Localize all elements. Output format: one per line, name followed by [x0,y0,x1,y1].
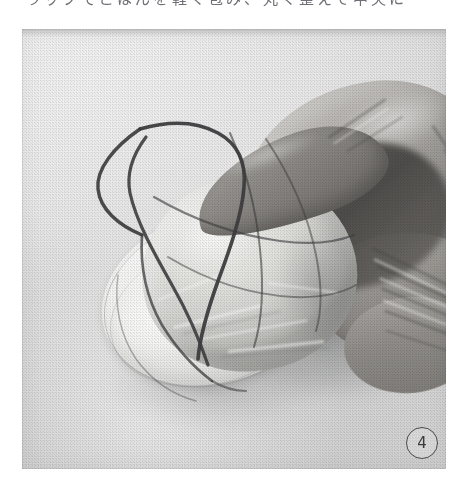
caption-text: ラップでごはんを軽く包み、丸く整えて中央に [26,0,407,8]
step-number-badge: 4 [406,427,438,459]
instruction-photo: 4 [22,29,446,469]
photo-top-edge-shading [22,29,446,37]
scanned-page: ラップでごはんを軽く包み、丸く整えて中央に [0,0,463,479]
thread-overlay [22,29,446,469]
caption-strip: ラップでごはんを軽く包み、丸く整えて中央に [0,0,463,16]
